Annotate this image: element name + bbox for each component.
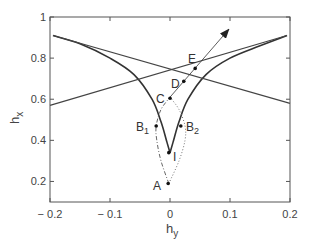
x-tick-label: 0.1 (222, 208, 237, 220)
point-label-e: E (188, 52, 196, 66)
series-layer (50, 29, 290, 183)
point-marker-d (182, 80, 186, 84)
point-marker-c (168, 96, 172, 100)
point-marker-b2 (179, 124, 183, 128)
astroid-chart: − 0.2− 0.100.10.20.20.40.60.81 hy hx A I… (0, 0, 310, 248)
x-axis-label: hy (166, 221, 178, 239)
y-tick-label: 1 (40, 11, 46, 23)
point-label-b2: B2 (186, 120, 199, 136)
point-label-c: C (156, 92, 165, 106)
point-marker-i (167, 151, 171, 155)
y-tick-label: 0.6 (31, 93, 46, 105)
y-tick-label: 0.8 (31, 52, 46, 64)
point-marker-b1 (154, 124, 158, 128)
point-label-b1: B1 (136, 120, 149, 136)
point-label-a: A (153, 179, 161, 193)
point-label-i: I (173, 150, 176, 164)
x-tick-label: − 0.2 (38, 208, 63, 220)
x-tick-label: 0 (167, 208, 173, 220)
point-marker-e (193, 67, 197, 71)
astroid-left-branch (53, 36, 170, 153)
path-A-B1-C (156, 97, 170, 183)
point-label-d: D (171, 77, 180, 91)
x-tick-label: − 0.1 (98, 208, 123, 220)
tick-labels: − 0.2− 0.100.10.20.20.40.60.81 (31, 11, 298, 220)
y-axis-label: hx (7, 112, 25, 124)
x-tick-label: 0.2 (282, 208, 297, 220)
y-tick-label: 0.2 (31, 175, 46, 187)
y-tick-label: 0.4 (31, 134, 46, 146)
point-marker-a (166, 182, 170, 186)
